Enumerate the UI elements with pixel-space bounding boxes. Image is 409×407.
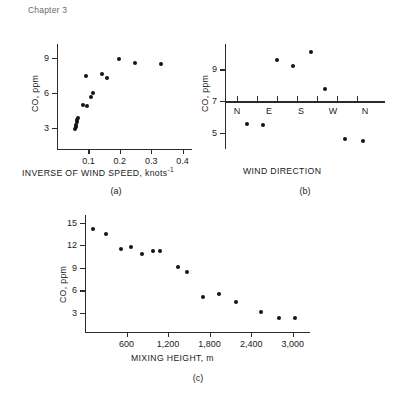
x-tick xyxy=(168,332,169,337)
y-axis-line xyxy=(57,44,58,149)
x-tick xyxy=(237,96,238,101)
y-tick-label: 9 xyxy=(44,53,49,63)
x-tick-label: 0.1 xyxy=(82,156,95,166)
data-point xyxy=(117,57,121,61)
x-tick-label: 0.3 xyxy=(145,156,158,166)
y-tick xyxy=(80,268,85,269)
y-tick xyxy=(52,93,57,94)
y-tick-label: 15 xyxy=(67,218,77,228)
y-tick xyxy=(52,128,57,129)
figure-page: Chapter 3 3690.10.20.30.4CO, ppmINVERSE … xyxy=(0,0,409,407)
y-tick xyxy=(80,245,85,246)
x-tick xyxy=(183,149,184,154)
x-tick-label: 0.2 xyxy=(114,156,127,166)
x-tick xyxy=(257,96,258,101)
data-point xyxy=(159,62,163,66)
x-axis-line xyxy=(225,101,385,102)
x-axis-title: INVERSE OF WIND SPEED, knots-1 xyxy=(22,166,174,178)
data-point xyxy=(129,245,133,249)
x-tick xyxy=(251,332,252,337)
y-tick-label: 5 xyxy=(212,128,217,138)
data-point xyxy=(343,137,347,141)
wind-direction-label: N xyxy=(362,106,369,116)
y-tick-label: 12 xyxy=(67,240,77,250)
data-point xyxy=(309,50,313,54)
x-axis-line xyxy=(85,332,310,333)
data-point xyxy=(185,270,189,274)
data-point xyxy=(119,247,123,251)
y-tick-label: 3 xyxy=(72,308,77,318)
x-tick-label: 2,400 xyxy=(240,339,263,349)
data-point xyxy=(140,252,144,256)
x-tick xyxy=(277,96,278,101)
x-tick xyxy=(88,149,89,154)
data-point xyxy=(76,116,80,120)
wind-direction-label: N xyxy=(234,106,241,116)
y-axis-title: CO, ppm xyxy=(58,266,68,303)
y-tick xyxy=(220,101,225,102)
y-tick-label: 6 xyxy=(72,285,77,295)
chart-panel-a: 3690.10.20.30.4CO, ppmINVERSE OF WIND SP… xyxy=(0,0,205,200)
data-point xyxy=(91,91,95,95)
y-tick-label: 9 xyxy=(72,263,77,273)
x-tick-label: 0.4 xyxy=(176,156,189,166)
y-tick-label: 3 xyxy=(44,123,49,133)
wind-direction-label: W xyxy=(329,106,338,116)
data-point xyxy=(158,249,162,253)
y-axis-line xyxy=(85,215,86,332)
y-axis-line xyxy=(225,44,226,149)
chart-panel-b: 579NESWNCO, ppmWIND DIRECTION(b) xyxy=(195,0,409,200)
data-point xyxy=(277,316,281,320)
data-point xyxy=(323,87,327,91)
data-point xyxy=(85,104,89,108)
data-point xyxy=(275,58,279,62)
y-tick xyxy=(80,313,85,314)
x-tick xyxy=(317,96,318,101)
data-point xyxy=(361,139,365,143)
x-tick-label: 1,800 xyxy=(198,339,221,349)
x-tick xyxy=(293,332,294,337)
x-tick xyxy=(337,96,338,101)
y-tick-label: 9 xyxy=(212,64,217,74)
panel-caption: (c) xyxy=(193,373,204,383)
x-tick-label: 600 xyxy=(119,339,134,349)
data-point xyxy=(133,61,137,65)
wind-direction-label: S xyxy=(298,106,304,116)
x-tick-label: 3,000 xyxy=(281,339,304,349)
data-point xyxy=(245,122,249,126)
y-tick xyxy=(80,290,85,291)
data-point xyxy=(91,227,95,231)
x-tick-label: 1,200 xyxy=(157,339,180,349)
data-point xyxy=(176,265,180,269)
y-axis-title: CO, ppm xyxy=(30,75,40,112)
y-axis-title: CO, ppm xyxy=(200,75,210,112)
x-tick xyxy=(151,149,152,154)
y-tick xyxy=(220,69,225,70)
x-tick xyxy=(120,149,121,154)
x-tick xyxy=(210,332,211,337)
x-tick xyxy=(127,332,128,337)
data-point xyxy=(151,249,155,253)
wind-direction-label: E xyxy=(266,106,272,116)
data-point xyxy=(100,72,104,76)
data-point xyxy=(291,64,295,68)
data-point xyxy=(201,295,205,299)
data-point xyxy=(84,74,88,78)
data-point xyxy=(104,232,108,236)
y-tick xyxy=(220,133,225,134)
x-tick xyxy=(297,96,298,101)
x-tick xyxy=(357,96,358,101)
data-point xyxy=(234,300,238,304)
y-tick xyxy=(80,223,85,224)
y-tick-label: 6 xyxy=(44,88,49,98)
x-axis-line xyxy=(57,149,192,150)
data-point xyxy=(293,316,297,320)
data-point xyxy=(89,95,93,99)
data-point xyxy=(105,76,109,80)
data-point xyxy=(261,123,265,127)
x-axis-title: MIXING HEIGHT, m xyxy=(131,353,214,363)
data-point xyxy=(259,310,263,314)
y-tick xyxy=(52,58,57,59)
knots-exponent: -1 xyxy=(167,166,173,173)
x-axis-title: WIND DIRECTION xyxy=(243,166,321,176)
